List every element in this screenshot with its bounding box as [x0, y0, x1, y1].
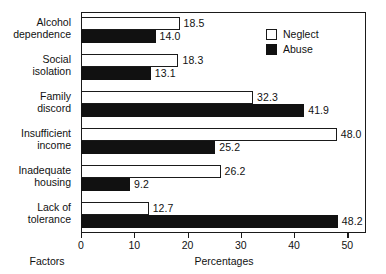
- category-label-line: Insufficient: [0, 127, 71, 139]
- category-label-line: discord: [0, 102, 71, 114]
- x-tick-mark: [134, 233, 135, 238]
- x-axis-title: Percentages: [144, 255, 304, 268]
- bar-abuse-5: [81, 215, 338, 228]
- x-tick-label: 50: [342, 239, 354, 252]
- x-tick-label: 40: [288, 239, 300, 252]
- bar-neglect-1: [81, 54, 178, 67]
- category-label-line: dependence: [0, 28, 71, 40]
- category-label-3: Insufficientincome: [0, 127, 76, 153]
- category-label-line: isolation: [0, 65, 71, 77]
- bar-value-label: 9.2: [134, 178, 149, 191]
- x-tick-label: 20: [182, 239, 194, 252]
- bar-abuse-3: [81, 141, 215, 154]
- category-label-line: tolerance: [0, 213, 71, 225]
- category-label-2: Familydiscord: [0, 90, 76, 116]
- bar-neglect-4: [81, 165, 221, 178]
- x-tick-mark: [81, 233, 82, 238]
- bar-neglect-5: [81, 202, 149, 215]
- bar-value-label: 48.2: [342, 215, 363, 228]
- category-label-1: Socialisolation: [0, 53, 76, 79]
- category-label-line: Lack of: [0, 201, 71, 213]
- bar-value-label: 32.3: [257, 91, 278, 104]
- bar-value-label: 18.3: [182, 54, 203, 67]
- bar-abuse-1: [81, 67, 151, 80]
- x-tick-mark: [347, 233, 348, 238]
- legend-label: Neglect: [283, 28, 319, 40]
- bar-neglect-2: [81, 91, 253, 104]
- chart-legend: NeglectAbuse: [266, 27, 361, 57]
- x-tick-mark: [294, 233, 295, 238]
- bar-abuse-4: [81, 178, 130, 191]
- legend-swatch-black-square-filled: [266, 44, 277, 55]
- legend-label: Abuse: [283, 43, 313, 55]
- x-tick-label: 0: [78, 239, 84, 252]
- category-axis-labels: AlcoholdependenceSocialisolationFamilydi…: [0, 12, 76, 233]
- y-axis-title: Factors: [12, 255, 82, 268]
- legend-swatch-white-square-outline: [266, 29, 277, 40]
- x-tick-label: 30: [235, 239, 247, 252]
- bar-value-label: 26.2: [225, 165, 246, 178]
- category-label-line: Social: [0, 53, 71, 65]
- category-label-line: Family: [0, 90, 71, 102]
- legend-item-abuse: Abuse: [266, 42, 361, 56]
- category-label-5: Lack oftolerance: [0, 201, 76, 227]
- x-axis: 01020304050: [81, 233, 366, 255]
- category-label-line: Inadequate: [0, 164, 71, 176]
- bar-abuse-2: [81, 104, 304, 117]
- bar-value-label: 41.9: [308, 104, 329, 117]
- legend-item-neglect: Neglect: [266, 27, 361, 41]
- bar-value-label: 25.2: [219, 141, 240, 154]
- bar-value-label: 12.7: [153, 202, 174, 215]
- x-tick-label: 10: [128, 239, 140, 252]
- bar-neglect-0: [81, 17, 180, 30]
- category-label-line: Alcohol: [0, 16, 71, 28]
- bar-value-label: 18.5: [184, 17, 205, 30]
- bar-abuse-0: [81, 30, 156, 43]
- bar-value-label: 13.1: [155, 67, 176, 80]
- bar-chart-figure: AlcoholdependenceSocialisolationFamilydi…: [0, 0, 386, 274]
- bar-value-label: 48.0: [341, 128, 362, 141]
- category-label-0: Alcoholdependence: [0, 16, 76, 42]
- category-label-4: Inadequatehousing: [0, 164, 76, 190]
- category-label-line: housing: [0, 176, 71, 188]
- bar-neglect-3: [81, 128, 337, 141]
- x-tick-mark: [188, 233, 189, 238]
- x-tick-mark: [241, 233, 242, 238]
- bar-value-label: 14.0: [160, 30, 181, 43]
- category-label-line: income: [0, 139, 71, 151]
